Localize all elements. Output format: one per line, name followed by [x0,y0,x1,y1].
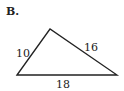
triangle-shape [17,29,117,75]
side-bottom-length: 18 [56,79,70,90]
side-left-length: 10 [16,48,30,59]
side-right-length: 16 [84,42,98,53]
